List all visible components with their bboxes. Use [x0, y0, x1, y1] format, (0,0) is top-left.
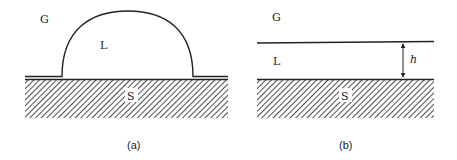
liquid-surface-b	[257, 42, 434, 44]
gas-label-a: G	[40, 13, 49, 26]
solid-label-b: S	[341, 90, 349, 103]
caption-b: (b)	[339, 139, 352, 151]
panel-a: G L S (a)	[25, 11, 228, 151]
panel-b: G L S h (b)	[257, 11, 434, 151]
caption-a: (a)	[127, 139, 140, 151]
figure-canvas: G L S (a) G L S h (b)	[0, 0, 457, 160]
droplet-outline	[25, 11, 228, 77]
solid-label-a: S	[127, 90, 135, 103]
gas-label-b: G	[272, 11, 281, 24]
thickness-label: h	[410, 53, 417, 66]
liquid-label-a: L	[100, 39, 108, 52]
liquid-label-b: L	[273, 55, 281, 68]
